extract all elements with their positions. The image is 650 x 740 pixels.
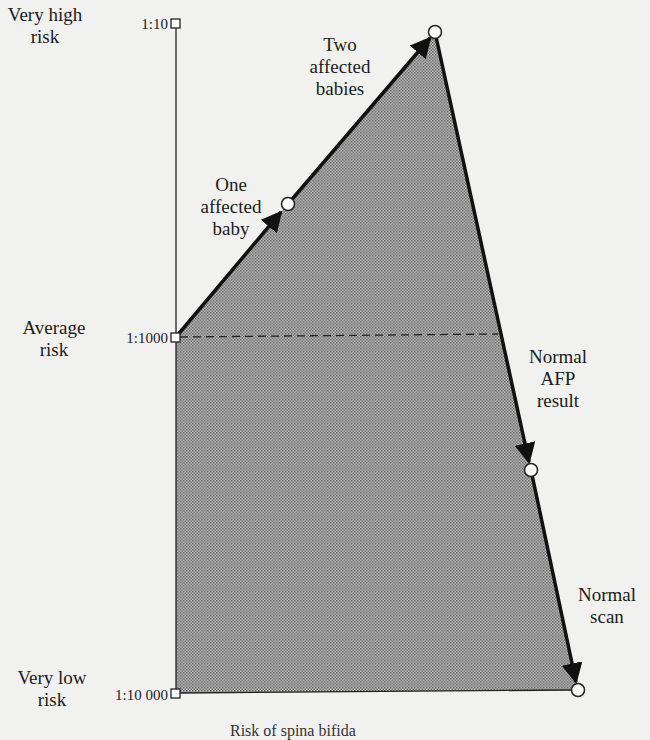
label-very-high-risk: Very high risk	[2, 4, 88, 48]
point-two-babies	[429, 26, 442, 39]
diagram-caption: Risk of spina bifida	[230, 722, 356, 740]
label-average-risk: Average risk	[4, 317, 104, 361]
point-afp	[525, 464, 538, 477]
tick-1-10000: 1:10 000	[80, 686, 168, 704]
tick-1-10: 1:10	[100, 15, 168, 33]
label-normal-scan: Normal scan	[572, 584, 642, 628]
tick-marker-low	[171, 689, 180, 698]
risk-area	[176, 32, 578, 693]
tick-marker-high	[171, 19, 180, 28]
label-two-affected-babies: Two affected babies	[302, 34, 378, 100]
tick-1-1000: 1:1000	[90, 329, 168, 347]
point-scan	[572, 684, 585, 697]
label-one-affected-baby: One affected baby	[196, 174, 266, 240]
point-one-baby	[282, 198, 295, 211]
tick-marker-average	[171, 333, 180, 342]
label-normal-afp-result: Normal AFP result	[523, 346, 593, 412]
